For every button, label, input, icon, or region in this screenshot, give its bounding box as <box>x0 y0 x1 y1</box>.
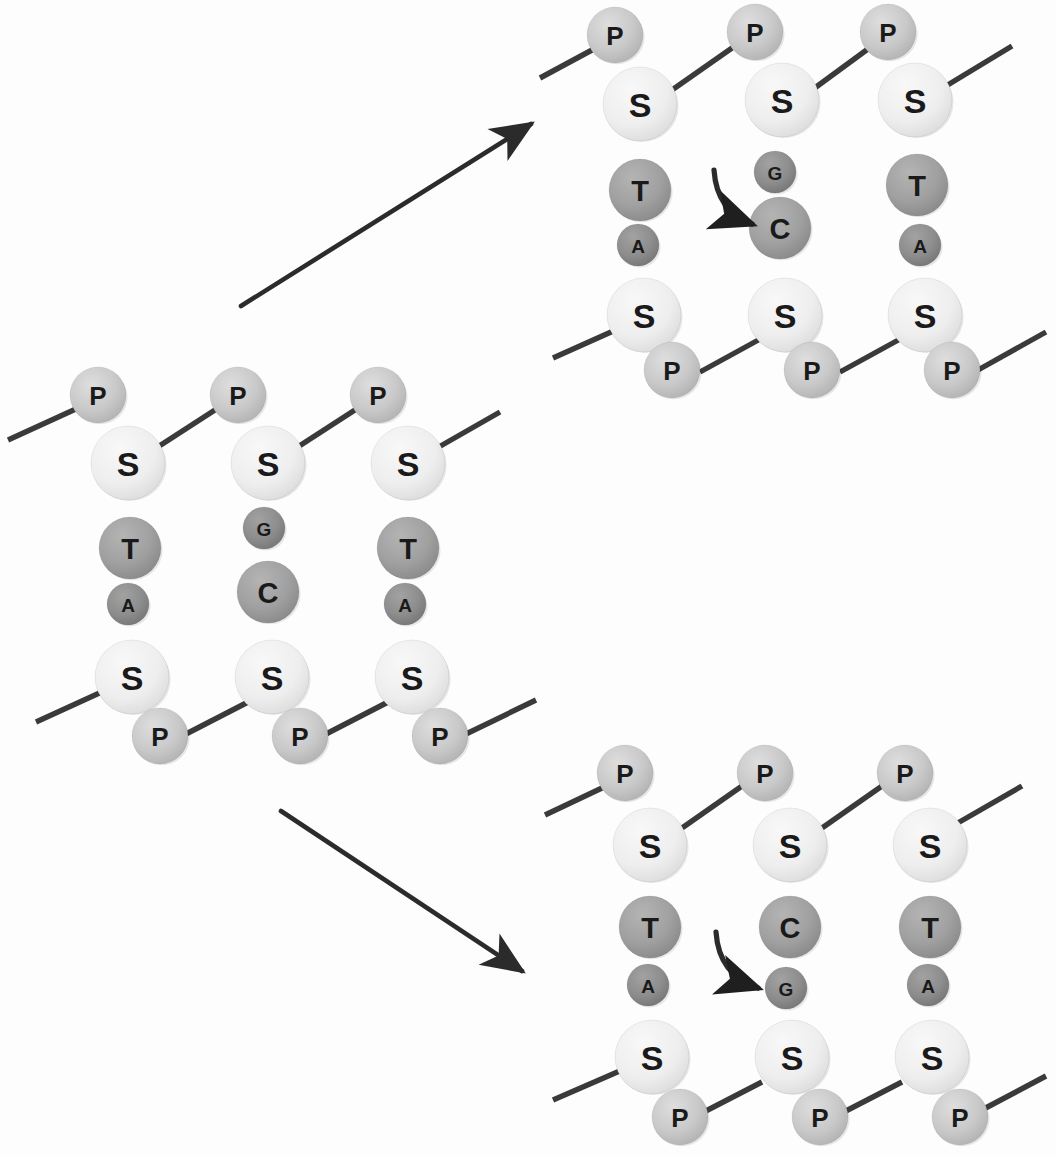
sugar-node-s: S <box>371 426 447 501</box>
nucleotide-nodes-group: PSTASPPSGCSPPSTASPPSTASPPSGCSPPSTASPPSTA… <box>70 4 990 1146</box>
node-label-c: C <box>780 912 801 944</box>
base-node-a: A <box>617 224 661 268</box>
phosphate-node-p: P <box>597 745 655 802</box>
sugar-node-s: S <box>753 808 829 883</box>
base-node-a: A <box>384 583 428 627</box>
sugar-node-s: S <box>95 640 171 715</box>
node-label-s: S <box>257 445 280 483</box>
base-node-a: A <box>899 224 943 268</box>
backbone-segment-bottom-1 <box>186 700 252 734</box>
node-label-s: S <box>771 82 794 120</box>
phosphate-node-p: P <box>924 342 982 399</box>
phosphate-node-p: P <box>932 1089 990 1146</box>
backbone-segment-bottom-1 <box>700 1082 762 1114</box>
backbone-segment-bottom-2 <box>326 700 392 734</box>
base-node-t: T <box>609 159 673 222</box>
backbone-segment-top-2 <box>822 786 882 828</box>
sugar-node-s: S <box>745 63 821 138</box>
backbone-segment-bottom-3 <box>978 1076 1046 1112</box>
node-label-a: A <box>913 236 927 257</box>
node-label-p: P <box>89 381 106 411</box>
node-label-p: P <box>943 356 960 386</box>
node-label-s: S <box>121 659 144 697</box>
base-node-g: G <box>243 507 287 551</box>
node-label-a: A <box>398 595 412 616</box>
sugar-node-s: S <box>615 1020 691 1095</box>
node-label-s: S <box>914 297 937 335</box>
backbone-segment-bottom-2 <box>840 338 902 372</box>
backbone-segment-bottom-3 <box>466 700 536 734</box>
base-node-t: T <box>99 517 163 580</box>
node-label-t: T <box>641 912 659 944</box>
diagram-canvas: PSTASPPSGCSPPSTASPPSTASPPSGCSPPSTASPPSTA… <box>0 0 1056 1157</box>
backbone-segment-bottom-2 <box>840 1082 902 1114</box>
node-label-s: S <box>641 1039 664 1077</box>
backbone-lines-group <box>8 46 1046 1114</box>
base-node-c: C <box>759 896 823 959</box>
transition-arrow-upper <box>241 124 531 306</box>
dna-diagram-svg: PSTASPPSGCSPPSTASPPSTASPPSGCSPPSTASPPSTA… <box>0 0 1056 1157</box>
node-label-g: G <box>768 163 783 184</box>
node-label-s: S <box>397 445 420 483</box>
node-label-s: S <box>779 827 802 865</box>
node-label-a: A <box>641 976 655 997</box>
base-node-a: A <box>627 964 671 1008</box>
node-label-s: S <box>921 1039 944 1077</box>
node-label-p: P <box>951 1103 968 1133</box>
backbone-segment-bottom-0 <box>553 328 620 358</box>
backbone-segment-bottom-1 <box>700 338 762 372</box>
phosphate-node-p: P <box>860 4 918 61</box>
node-label-s: S <box>781 1039 804 1077</box>
phosphate-node-p: P <box>132 708 190 765</box>
node-label-a: A <box>631 236 645 257</box>
sugar-node-s: S <box>231 426 307 501</box>
base-node-a: A <box>907 964 951 1008</box>
backbone-segment-bottom-0 <box>553 1070 622 1100</box>
node-label-s: S <box>774 297 797 335</box>
backbone-segment-top-0 <box>545 788 602 815</box>
curved-arrow-to-guanine <box>716 932 758 988</box>
phosphate-node-p: P <box>412 708 470 765</box>
sugar-node-s: S <box>91 426 167 501</box>
base-node-c: C <box>237 561 301 624</box>
base-node-t: T <box>619 896 683 959</box>
node-label-c: C <box>258 577 279 609</box>
node-label-p: P <box>616 759 633 789</box>
phosphate-node-p: P <box>792 1089 850 1146</box>
phosphate-node-p: P <box>727 4 785 61</box>
node-label-g: G <box>257 519 272 540</box>
node-label-t: T <box>631 175 649 207</box>
backbone-segment-bottom-3 <box>978 332 1046 370</box>
base-node-c: C <box>749 197 813 260</box>
node-label-t: T <box>399 533 417 565</box>
node-label-c: C <box>770 213 791 245</box>
base-node-g: G <box>765 967 809 1011</box>
phosphate-node-p: P <box>737 745 795 802</box>
node-label-p: P <box>671 1103 688 1133</box>
base-node-g: G <box>754 151 798 195</box>
node-label-p: P <box>746 18 763 48</box>
backbone-segment-top-1 <box>682 786 742 828</box>
sugar-node-s: S <box>878 63 954 138</box>
backbone-segment-top-3 <box>946 46 1012 86</box>
node-label-s: S <box>629 86 652 124</box>
node-label-p: P <box>879 18 896 48</box>
phosphate-node-p: P <box>652 1089 710 1146</box>
node-label-p: P <box>803 356 820 386</box>
sugar-node-s: S <box>895 1020 971 1095</box>
node-label-t: T <box>121 533 139 565</box>
transition-arrow-lower <box>281 811 522 971</box>
sugar-node-s: S <box>613 808 689 883</box>
node-label-p: P <box>756 759 773 789</box>
node-label-p: P <box>291 722 308 752</box>
sugar-node-s: S <box>893 808 969 883</box>
node-label-p: P <box>896 759 913 789</box>
sugar-node-s: S <box>603 67 679 142</box>
phosphate-node-p: P <box>784 342 842 399</box>
sugar-node-s: S <box>235 640 311 715</box>
node-label-p: P <box>606 21 623 51</box>
node-label-p: P <box>663 356 680 386</box>
backbone-segment-top-0 <box>8 408 78 440</box>
node-label-p: P <box>229 381 246 411</box>
base-node-t: T <box>377 517 441 580</box>
